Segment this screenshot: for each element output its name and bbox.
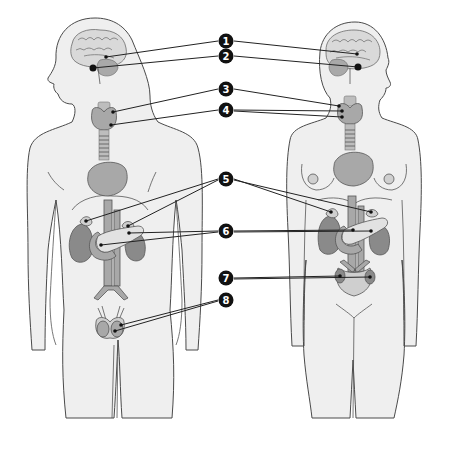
dot-pancreas-male-a xyxy=(127,231,131,235)
badge-8-label: 8 xyxy=(223,295,230,306)
dot-adrenal-male-l xyxy=(84,219,88,223)
female-right-nipple xyxy=(384,174,394,184)
female-heart xyxy=(334,152,374,186)
dot-parathyroid-female-a xyxy=(340,109,344,113)
leader-4-female-a xyxy=(234,110,342,111)
endocrine-diagram: 1 2 3 4 5 6 7 8 xyxy=(0,0,451,450)
dot-adrenal-female-l xyxy=(329,210,333,214)
badge-2-label: 2 xyxy=(223,51,230,62)
badge-6-label: 6 xyxy=(223,226,230,237)
badge-4: 4 xyxy=(219,103,234,118)
dot-ovary-l xyxy=(338,274,342,278)
male-trachea xyxy=(99,130,109,160)
dot-pancreas-female-b xyxy=(369,229,373,233)
dot-testis-l xyxy=(113,329,117,333)
dot-pituitary-female xyxy=(355,64,362,71)
badge-6: 6 xyxy=(219,224,234,239)
dot-testis-r xyxy=(119,323,123,327)
badge-8: 8 xyxy=(219,293,234,308)
leader-3-female xyxy=(234,89,339,106)
male-heart xyxy=(88,162,128,196)
dot-pancreas-female-a xyxy=(351,228,355,232)
male-left-testis xyxy=(97,321,109,337)
female-left-nipple xyxy=(308,174,318,184)
dot-hypothalamus-female xyxy=(355,52,359,56)
diagram-canvas: 1 2 3 4 5 6 7 8 xyxy=(0,0,451,450)
female-figure xyxy=(287,22,422,418)
badge-7: 7 xyxy=(219,271,234,286)
dot-thyroid-female xyxy=(337,104,341,108)
dot-pancreas-male-b xyxy=(99,243,103,247)
dot-adrenal-male-r xyxy=(126,224,130,228)
dot-parathyroid-female-b xyxy=(340,115,344,119)
badge-3: 3 xyxy=(219,82,234,97)
badge-2: 2 xyxy=(219,49,234,64)
badge-5: 5 xyxy=(219,172,234,187)
dot-ovary-r xyxy=(368,275,372,279)
badge-4-label: 4 xyxy=(223,105,230,116)
badge-5-label: 5 xyxy=(223,174,230,185)
leader-4-female-b xyxy=(234,111,342,117)
badge-1: 1 xyxy=(219,34,234,49)
dot-hypothalamus-male xyxy=(104,55,108,59)
badge-7-label: 7 xyxy=(223,273,230,284)
badge-3-label: 3 xyxy=(223,84,230,95)
male-figure xyxy=(27,18,202,418)
badge-1-label: 1 xyxy=(223,36,230,47)
dot-adrenal-female-r xyxy=(369,210,373,214)
dot-pituitary-male xyxy=(90,65,97,72)
dot-parathyroid-male xyxy=(109,123,113,127)
dot-thyroid-male xyxy=(111,110,115,114)
